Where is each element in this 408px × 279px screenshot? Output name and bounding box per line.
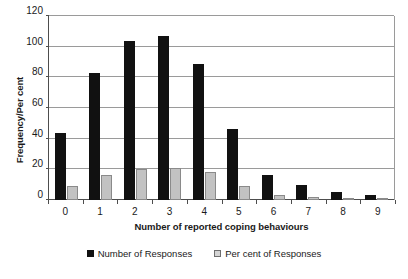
x-tick-mark-3: [152, 200, 153, 204]
bar-3-series-1: [170, 168, 181, 200]
bar-group-4: [187, 16, 222, 200]
x-axis-title: Number of reported coping behaviours: [48, 221, 395, 232]
bar-7-series-0: [296, 185, 307, 200]
x-tick-mark-7: [291, 200, 292, 204]
bar-3-series-0: [158, 36, 169, 200]
x-axis-tick-labels: 0123456789: [48, 205, 395, 219]
x-tick-label-6: 6: [256, 205, 291, 219]
x-tick-label-2: 2: [117, 205, 152, 219]
bar-group-5: [222, 16, 257, 200]
bar-0-series-0: [55, 133, 66, 200]
x-tick-mark-0: [48, 200, 49, 204]
y-tick-label-40: 40: [17, 129, 43, 139]
bar-groups: [49, 16, 394, 200]
bar-group-7: [291, 16, 326, 200]
x-tick-mark-4: [187, 200, 188, 204]
bar-6-series-0: [262, 175, 273, 200]
x-tick-mark-9: [360, 200, 361, 204]
bar-0-series-1: [67, 186, 78, 200]
bar-1-series-0: [89, 73, 100, 200]
bar-group-2: [118, 16, 153, 200]
chart-legend: Number of ResponsesPer cent of Responses: [0, 248, 408, 259]
y-tick-label-0: 0: [17, 190, 43, 200]
y-tick-label-80: 80: [17, 67, 43, 77]
legend-swatch-icon-0: [87, 250, 94, 257]
bar-5-series-1: [239, 186, 250, 200]
bar-group-9: [360, 16, 395, 200]
bar-group-8: [325, 16, 360, 200]
bar-2-series-1: [136, 169, 147, 200]
plot-area: [48, 16, 395, 200]
legend-label-0: Number of Responses: [98, 248, 193, 259]
y-tick-label-60: 60: [17, 98, 43, 108]
x-tick-label-5: 5: [222, 205, 257, 219]
y-axis-tick-labels: 020406080100120: [20, 16, 46, 200]
x-tick-label-1: 1: [83, 205, 118, 219]
bar-1-series-1: [101, 175, 112, 200]
bar-4-series-0: [193, 64, 204, 200]
legend-label-1: Per cent of Responses: [225, 248, 321, 259]
bar-2-series-0: [124, 41, 135, 200]
bar-5-series-0: [227, 129, 238, 200]
bar-4-series-1: [205, 172, 216, 200]
x-tick-label-8: 8: [326, 205, 361, 219]
bar-8-series-0: [331, 192, 342, 200]
x-tick-mark-10: [395, 200, 396, 204]
x-tick-label-0: 0: [48, 205, 83, 219]
x-tick-mark-6: [256, 200, 257, 204]
x-tick-mark-2: [117, 200, 118, 204]
bar-group-3: [153, 16, 188, 200]
bar-group-0: [49, 16, 84, 200]
bar-group-1: [84, 16, 119, 200]
y-tick-label-20: 20: [17, 159, 43, 169]
legend-item-0: Number of Responses: [87, 248, 193, 259]
y-tick-label-100: 100: [17, 37, 43, 47]
legend-swatch-icon-1: [214, 250, 221, 257]
x-tick-mark-5: [222, 200, 223, 204]
bar-group-6: [256, 16, 291, 200]
x-tick-label-4: 4: [187, 205, 222, 219]
x-tick-label-7: 7: [291, 205, 326, 219]
x-tick-label-9: 9: [360, 205, 395, 219]
x-tick-mark-1: [83, 200, 84, 204]
x-tick-mark-8: [326, 200, 327, 204]
bar-chart-figure: Frequency/Per cent 020406080100120 01234…: [0, 0, 408, 279]
y-tick-label-120: 120: [17, 6, 43, 16]
legend-item-1: Per cent of Responses: [214, 248, 321, 259]
x-tick-label-3: 3: [152, 205, 187, 219]
